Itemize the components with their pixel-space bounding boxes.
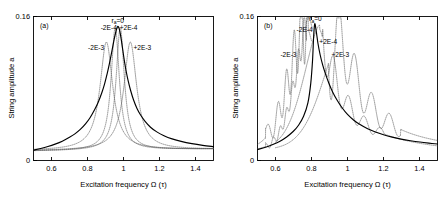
panel-a-plot-area: 0.60.811.21.4 [34, 17, 214, 174]
panel-a-svg: 0.60.811.21.4 0.16 0 (a) Excitation freq… [0, 0, 223, 200]
curve-plus-2e-3 [276, 18, 438, 148]
annotation-minus-2e-4: -2E-4 [101, 24, 117, 31]
x-tick-label: 1.2 [154, 164, 164, 173]
panel-label-a: (a) [40, 22, 48, 30]
curve-minus-2e-3 [258, 17, 312, 144]
annotation-minus-2e-3: -2E-3 [88, 44, 104, 51]
annotation-ra-zero: ra=0 [309, 15, 322, 24]
chart-panel-b: 0.60.811.21.4 0.16 0 (b) Excitation freq… [224, 0, 447, 200]
annotation-plus-2e-4: +2E-4 [319, 38, 337, 45]
y-tick-label-top: 0.16 [240, 12, 254, 21]
x-axis-ticks: 0.60.811.21.4 [258, 17, 425, 174]
x-axis-title: Excitation frequency Ω (τ) [80, 180, 167, 189]
y-axis-title: String amplitude a [231, 57, 240, 119]
y-tick-label-bottom: 0 [250, 156, 254, 165]
curve-ra-zero [258, 24, 438, 150]
x-tick-label: 0.8 [82, 164, 92, 173]
annotation-plus-2e-4: +2E-4 [120, 24, 138, 31]
x-tick-label: 1 [121, 164, 125, 173]
y-tick-label-bottom: 0 [26, 156, 30, 165]
x-tick-label: 1 [345, 164, 349, 173]
annotation-plus-2e-3: +2E-3 [331, 51, 349, 58]
x-axis-title: Excitation frequency Ω (τ) [304, 180, 391, 189]
panel-b-plot-area: 0.60.811.21.4 [258, 17, 438, 174]
x-tick-label: 0.6 [46, 164, 56, 173]
annotation-minus-2e-3: -2E-3 [280, 51, 296, 58]
chart-panel-a: 0.60.811.21.4 0.16 0 (a) Excitation freq… [0, 0, 223, 200]
annotation-plus-2e-3: +2E-3 [134, 44, 152, 51]
panel-b-annotations: ra=0-2E-4+2E-4-2E-3+2E-3 [280, 15, 349, 58]
panel-b-curves [258, 17, 438, 150]
panel-a-labels: 0.16 0 (a) Excitation frequency Ω (τ) St… [7, 12, 167, 189]
y-axis-title: String amplitude a [7, 57, 16, 119]
x-tick-label: 0.8 [306, 164, 316, 173]
panel-label-b: (b) [264, 22, 272, 30]
y-tick-label-top: 0.16 [16, 12, 30, 21]
panel-b-svg: 0.60.811.21.4 0.16 0 (b) Excitation freq… [224, 0, 447, 200]
x-tick-label: 1.4 [190, 164, 200, 173]
x-tick-label: 1.2 [378, 164, 388, 173]
figure-container: 0.60.811.21.4 0.16 0 (a) Excitation freq… [0, 0, 447, 200]
panel-a-curves [34, 26, 214, 150]
x-tick-label: 0.6 [270, 164, 280, 173]
annotation-minus-2e-4: -2E-4 [297, 26, 313, 33]
x-tick-label: 1.4 [414, 164, 424, 173]
curve-plus-2e-4 [276, 25, 438, 146]
